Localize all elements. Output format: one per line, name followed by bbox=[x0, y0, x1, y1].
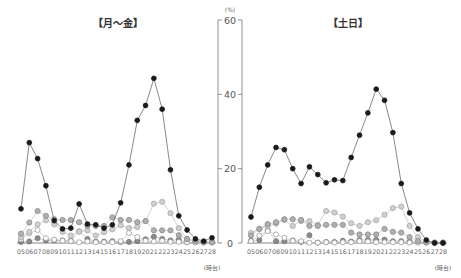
data-point bbox=[265, 163, 270, 168]
data-point bbox=[135, 224, 140, 229]
data-point bbox=[324, 180, 329, 185]
data-point bbox=[290, 217, 295, 222]
data-point bbox=[19, 206, 24, 211]
data-point bbox=[365, 111, 370, 116]
data-point bbox=[249, 239, 254, 244]
data-point bbox=[168, 239, 173, 244]
data-point bbox=[35, 227, 40, 232]
data-point bbox=[160, 199, 165, 204]
chart-title-weekday: 【月～金】 bbox=[93, 17, 143, 29]
x-tick-label: 14 bbox=[322, 248, 330, 255]
data-point bbox=[77, 202, 82, 207]
y-tick-label: 60 bbox=[224, 15, 236, 26]
data-point bbox=[349, 240, 354, 245]
data-point bbox=[126, 230, 131, 235]
data-point bbox=[43, 213, 48, 218]
data-point bbox=[274, 232, 279, 237]
data-point bbox=[349, 230, 354, 235]
data-point bbox=[332, 222, 337, 227]
y-tick-label: 40 bbox=[224, 89, 236, 100]
x-tick-label: 19 bbox=[133, 248, 141, 255]
data-point bbox=[35, 222, 40, 227]
data-point bbox=[357, 239, 362, 244]
data-point bbox=[77, 220, 82, 225]
data-point bbox=[307, 218, 312, 223]
data-point bbox=[68, 226, 73, 231]
data-point bbox=[143, 218, 148, 223]
chart-title-weekend: 【土日】 bbox=[328, 17, 368, 29]
data-point bbox=[185, 228, 190, 233]
x-tick-label: 11 bbox=[67, 248, 75, 255]
data-point bbox=[151, 228, 156, 233]
data-point bbox=[68, 239, 73, 244]
data-point bbox=[315, 172, 320, 177]
data-point bbox=[201, 239, 206, 244]
data-point bbox=[151, 76, 156, 81]
x-tick-label: 27 bbox=[431, 248, 439, 255]
x-tick-label: 08 bbox=[272, 248, 280, 255]
plot-area-weekend bbox=[247, 87, 447, 246]
data-point bbox=[176, 233, 181, 238]
data-point bbox=[340, 214, 345, 219]
data-point bbox=[118, 239, 123, 244]
data-point bbox=[349, 155, 354, 160]
data-point bbox=[257, 185, 262, 190]
data-point bbox=[118, 217, 123, 222]
y-tick-label: 0 bbox=[227, 238, 233, 249]
data-point bbox=[432, 241, 437, 246]
x-tick-label: 22 bbox=[389, 248, 397, 255]
data-point bbox=[265, 229, 270, 234]
x-tick-label: 28 bbox=[439, 248, 447, 255]
data-point bbox=[160, 228, 165, 233]
x-tick-label: 17 bbox=[347, 248, 355, 255]
data-point bbox=[357, 223, 362, 228]
x-tick-label: 15 bbox=[330, 248, 338, 255]
data-point bbox=[374, 232, 379, 237]
x-tick-label: 14 bbox=[92, 248, 100, 255]
data-point bbox=[290, 166, 295, 171]
data-point bbox=[143, 238, 148, 243]
data-point bbox=[35, 236, 40, 241]
data-point bbox=[102, 240, 107, 245]
data-point bbox=[315, 223, 320, 228]
x-tick-label: 06 bbox=[255, 248, 263, 255]
data-point bbox=[374, 218, 379, 223]
data-point bbox=[68, 233, 73, 238]
data-point bbox=[391, 130, 396, 135]
chart-canvas: 【月～金】 0506070809101112131415161718192021… bbox=[0, 0, 461, 278]
x-tick-label: 23 bbox=[166, 248, 174, 255]
data-point bbox=[365, 239, 370, 244]
data-point bbox=[43, 236, 48, 241]
data-point bbox=[184, 236, 189, 241]
x-tick-label: 10 bbox=[59, 248, 67, 255]
data-point bbox=[332, 210, 337, 215]
x-tick-label: 22 bbox=[158, 248, 166, 255]
data-point bbox=[27, 220, 32, 225]
data-point bbox=[340, 240, 345, 245]
data-point bbox=[399, 230, 404, 235]
x-tick-label: 09 bbox=[50, 248, 58, 255]
data-point bbox=[332, 240, 337, 245]
data-point bbox=[382, 212, 387, 217]
x-tick-label: 21 bbox=[381, 248, 389, 255]
x-tick-label: 05 bbox=[247, 248, 255, 255]
x-tick-label: 21 bbox=[150, 248, 158, 255]
data-point bbox=[399, 240, 404, 245]
data-point bbox=[126, 226, 131, 231]
data-point bbox=[135, 235, 140, 240]
data-point bbox=[160, 238, 165, 243]
data-point bbox=[93, 233, 98, 238]
x-unit-label-weekend: (時台) bbox=[435, 264, 452, 272]
data-point bbox=[60, 226, 65, 231]
data-point bbox=[85, 222, 90, 227]
data-point bbox=[307, 233, 312, 238]
data-point bbox=[274, 145, 279, 150]
data-point bbox=[282, 147, 287, 152]
x-tick-label: 07 bbox=[264, 248, 272, 255]
data-point bbox=[340, 222, 345, 227]
data-point bbox=[160, 107, 165, 112]
data-point bbox=[307, 223, 312, 228]
data-point bbox=[324, 240, 329, 245]
x-tick-label: 20 bbox=[372, 248, 380, 255]
data-point bbox=[441, 241, 446, 246]
